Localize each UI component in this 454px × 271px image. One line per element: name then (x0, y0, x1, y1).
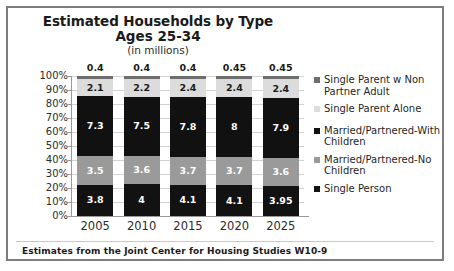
bar-value-label: 3.7 (180, 166, 197, 176)
bar-top-value-label: 0.4 (170, 63, 206, 73)
bar-column[interactable]: 3.953.67.92.4 (263, 76, 299, 216)
x-axis-line (71, 216, 309, 217)
chart-title: Estimated Households by Type (8, 14, 308, 29)
bar-value-label: 8 (231, 122, 238, 132)
bar-column[interactable]: 4.13.77.82.4 (170, 76, 206, 216)
legend-item[interactable]: Single Parent Alone (314, 103, 444, 115)
y-axis-tick (68, 160, 72, 161)
bar-segment[interactable]: 7.3 (77, 96, 113, 156)
bar-segment[interactable]: 2.4 (216, 79, 252, 97)
bar-segment[interactable]: 2.1 (77, 79, 113, 96)
y-axis-tick-label: 30% (30, 169, 68, 179)
bar-value-label: 4 (138, 195, 145, 205)
bar-value-label: 7.5 (133, 121, 150, 131)
chart-units-note: (in millions) (8, 44, 308, 57)
chart-subtitle: Ages 25-34 (8, 29, 308, 44)
legend-item[interactable]: Married/Partnered-No Children (314, 154, 444, 177)
y-axis-tick (68, 104, 72, 105)
bar-segment[interactable] (170, 76, 206, 79)
bar-value-label: 3.6 (133, 165, 150, 175)
y-axis-tick (68, 146, 72, 147)
y-axis-tick (68, 90, 72, 91)
bar-value-label: 2.2 (133, 83, 150, 93)
x-axis-tick-label: 2025 (263, 220, 299, 233)
x-axis-tick-label: 2020 (216, 220, 252, 233)
bar-top-value-label: 0.4 (77, 63, 113, 73)
bar-column[interactable]: 43.67.52.2 (124, 76, 160, 216)
legend-label: Single Parent w Non Partner Adult (324, 74, 444, 97)
legend-label: Married/Partnered-With Children (324, 125, 444, 148)
y-axis-tick-label: 100% (30, 71, 68, 81)
bar-top-value-label: 0.4 (124, 63, 160, 73)
bar-segment[interactable] (124, 76, 160, 79)
bar-segment[interactable]: 2.4 (170, 79, 206, 97)
y-axis-tick (68, 174, 72, 175)
bar-value-label: 3.95 (269, 196, 292, 206)
bar-segment[interactable]: 3.7 (216, 157, 252, 185)
bar-segment[interactable]: 4.1 (216, 185, 252, 216)
bar-segment[interactable]: 4 (124, 184, 160, 216)
bar-value-label: 4.1 (180, 195, 197, 205)
legend-label: Married/Partnered-No Children (324, 154, 444, 177)
legend-swatch-icon (314, 106, 320, 112)
legend-swatch-icon (314, 186, 320, 192)
bar-segment[interactable]: 4.1 (170, 185, 206, 216)
bar-segment[interactable]: 3.8 (77, 185, 113, 216)
y-axis-tick-label: 90% (30, 85, 68, 95)
y-axis-tick-label: 60% (30, 127, 68, 137)
legend-label: Single Person (324, 183, 392, 195)
y-axis-tick (68, 118, 72, 119)
bar-segment[interactable]: 3.6 (263, 158, 299, 186)
bar-column[interactable]: 4.13.782.4 (216, 76, 252, 216)
source-note: Estimates from the Joint Center for Hous… (22, 246, 327, 257)
y-axis-tick-label: 50% (30, 141, 68, 151)
bar-value-label: 3.5 (87, 166, 104, 176)
y-axis-tick (68, 202, 72, 203)
bar-segment[interactable]: 3.6 (124, 156, 160, 184)
bar-segment[interactable]: 3.95 (263, 186, 299, 216)
bar-segment[interactable]: 3.7 (170, 157, 206, 185)
bar-top-value-label: 0.45 (216, 63, 252, 73)
legend-swatch-icon (314, 157, 320, 163)
bar-segment[interactable]: 8 (216, 97, 252, 157)
bar-segment[interactable]: 2.4 (263, 79, 299, 97)
title-block: Estimated Households by Type Ages 25-34 … (8, 14, 308, 57)
y-axis-tick-label: 20% (30, 183, 68, 193)
y-axis-tick-label: 80% (30, 99, 68, 109)
legend-item[interactable]: Single Person (314, 183, 444, 195)
bar-value-label: 7.9 (272, 123, 289, 133)
bar-value-label: 2.4 (226, 83, 243, 93)
bar-segment[interactable]: 7.5 (124, 97, 160, 156)
y-axis-tick-label: 10% (30, 197, 68, 207)
bar-segment[interactable]: 2.2 (124, 79, 160, 96)
y-axis-tick-label: 70% (30, 113, 68, 123)
bar-segment[interactable]: 7.8 (170, 97, 206, 156)
bar-top-value-label: 0.45 (263, 63, 299, 73)
legend-swatch-icon (314, 77, 320, 83)
y-axis-tick (68, 216, 72, 217)
bar-segment[interactable]: 7.9 (263, 98, 299, 158)
bar-value-label: 3.7 (226, 166, 243, 176)
bar-value-label: 7.8 (180, 122, 197, 132)
chart-frame: Estimated Households by Type Ages 25-34 … (6, 6, 444, 261)
legend-swatch-icon (314, 128, 320, 134)
y-axis-tick (68, 132, 72, 133)
bar-value-label: 2.4 (180, 83, 197, 93)
legend-item[interactable]: Single Parent w Non Partner Adult (314, 74, 444, 97)
bar-segment[interactable] (263, 76, 299, 79)
x-axis-tick-labels: 20052010201520202025 (72, 220, 304, 236)
bar-segment[interactable] (77, 76, 113, 79)
legend-label: Single Parent Alone (324, 103, 421, 115)
bar-value-label: 2.1 (87, 83, 104, 93)
x-axis-tick-label: 2015 (170, 220, 206, 233)
bar-value-label: 3.6 (272, 167, 289, 177)
legend-item[interactable]: Married/Partnered-With Children (314, 125, 444, 148)
x-axis-tick-label: 2010 (124, 220, 160, 233)
bar-segment[interactable] (216, 76, 252, 79)
bar-segment[interactable]: 3.5 (77, 156, 113, 185)
bar-column[interactable]: 3.83.57.32.1 (77, 76, 113, 216)
y-axis-tick (68, 188, 72, 189)
bar-value-label: 7.3 (87, 121, 104, 131)
y-axis-tick-label: 40% (30, 155, 68, 165)
y-axis-tick-labels: 0%10%20%30%40%50%60%70%80%90%100% (30, 76, 68, 216)
